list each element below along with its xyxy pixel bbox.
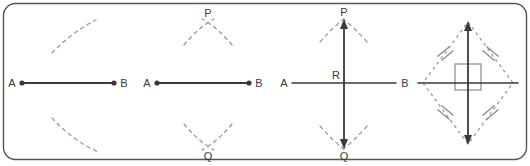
label-q-step-3: Q: [340, 150, 349, 162]
label-p-step-2: P: [204, 7, 211, 19]
label-a-step-1: A: [8, 77, 16, 89]
label-p-step-3: P: [340, 6, 347, 18]
label-b-step-1: B: [120, 77, 127, 89]
figure-border: [4, 4, 527, 160]
endpoint-dot-b-step-2: [246, 80, 251, 85]
construction-figure: A B P Q A B P: [0, 0, 530, 166]
endpoint-dot-a-step-2: [154, 80, 159, 85]
label-b-step-3: B: [401, 77, 408, 89]
label-q-step-2: Q: [204, 150, 213, 162]
label-a-step-2: A: [143, 77, 151, 89]
label-a-step-3: A: [280, 77, 288, 89]
endpoint-dot-a-step-1: [19, 80, 24, 85]
label-b-step-2: B: [255, 77, 262, 89]
endpoint-dot-b-step-1: [111, 80, 116, 85]
label-r-step-3: R: [332, 69, 340, 81]
figure-canvas: A B P Q A B P: [0, 0, 530, 166]
